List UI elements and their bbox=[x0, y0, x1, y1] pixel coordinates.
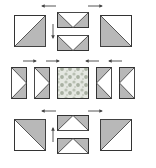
hst-top-left bbox=[15, 16, 46, 47]
flying-geese-bottom-upper bbox=[58, 116, 89, 131]
goose-right-1 bbox=[12, 68, 27, 99]
top-row bbox=[15, 6, 132, 51]
flying-geese-top-upper bbox=[58, 13, 89, 28]
flying-geese-top-lower bbox=[58, 36, 89, 51]
hst-bottom-left bbox=[15, 120, 46, 151]
goose-right-2 bbox=[35, 68, 50, 99]
goose-left-2 bbox=[120, 68, 135, 99]
flying-geese-bottom-lower bbox=[58, 139, 89, 154]
goose-left-1 bbox=[97, 68, 112, 99]
center-square bbox=[58, 68, 89, 99]
quilt-assembly-diagram bbox=[0, 0, 156, 168]
hst-bottom-right bbox=[101, 120, 132, 151]
middle-row bbox=[12, 61, 135, 99]
hst-top-right bbox=[101, 16, 132, 47]
bottom-row bbox=[15, 111, 132, 154]
